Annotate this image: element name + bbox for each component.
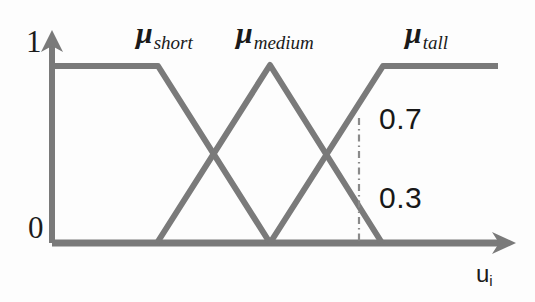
x-axis-variable-subscript: i [489, 272, 492, 289]
mu-subscript-medium: medium [254, 32, 314, 53]
x-axis-variable-label: ui [476, 262, 493, 286]
curve-mu-short [54, 66, 270, 243]
curve-mu-tall [270, 66, 498, 243]
legend-label-mu-short: μshort [136, 18, 192, 48]
mu-subscript-tall: tall [423, 32, 448, 53]
mu-symbol-tall: μ [405, 16, 422, 49]
fuzzy-membership-chart: 1 0 μshort μmedium μtall 0.7 0.3 ui [0, 0, 535, 302]
legend-label-mu-tall: μtall [405, 18, 447, 48]
curve-mu-medium [157, 65, 382, 243]
annotation-membership-high: 0.7 [379, 104, 422, 134]
y-axis-min-label: 0 [28, 212, 44, 243]
legend-label-mu-medium: μmedium [236, 18, 313, 48]
mu-symbol-medium: μ [236, 16, 253, 49]
annotation-membership-low: 0.3 [379, 183, 422, 213]
x-axis-variable-main: u [476, 260, 489, 287]
mu-subscript-short: short [154, 32, 193, 53]
mu-symbol-short: μ [136, 16, 153, 49]
y-axis-max-label: 1 [26, 26, 42, 57]
